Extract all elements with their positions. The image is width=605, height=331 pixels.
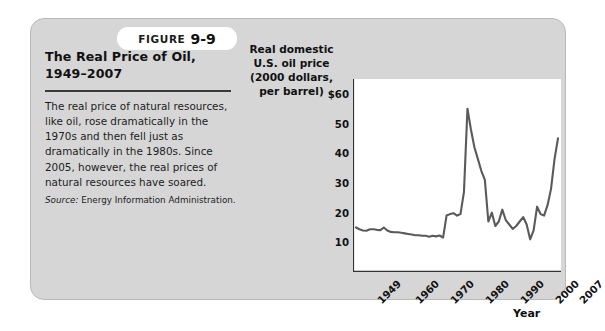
figure-panel: Figure 9-9 The Real Price of Oil, 1949–2…: [30, 18, 566, 300]
title-divider: [45, 90, 231, 92]
plot-area: [353, 79, 561, 272]
oil-price-line-chart: [353, 79, 561, 272]
source-label: Source:: [45, 195, 78, 205]
y-tick-label: 40: [315, 148, 349, 159]
caption-column: The Real Price of Oil, 1949–2007 The rea…: [45, 49, 238, 206]
x-tick-label: 1970: [448, 278, 476, 306]
x-tick-label: 2000: [553, 278, 581, 306]
figure-caption-text: The real price of natural resources, lik…: [45, 99, 238, 189]
figure-number-tab: Figure 9-9: [117, 27, 237, 50]
x-tick-label: 1980: [483, 278, 511, 306]
x-axis-title: Year: [513, 307, 540, 320]
chart: Real domestic U.S. oil price (2000 dolla…: [235, 43, 559, 293]
y-tick-label: 20: [315, 207, 349, 218]
figure-number: 9-9: [190, 31, 215, 47]
figure-source: Source: Energy Information Administratio…: [45, 195, 238, 206]
y-tick-label: 50: [315, 118, 349, 129]
y-axis-tick-labels: $605040302010: [313, 79, 349, 272]
x-tick-label: 1960: [414, 278, 442, 306]
x-tick-label: 2007: [577, 278, 605, 306]
y-tick-label: $60: [315, 88, 349, 99]
x-tick-label: 1949: [375, 278, 403, 306]
axis-lines: [353, 79, 561, 272]
y-tick-label: 10: [315, 237, 349, 248]
y-tick-label: 30: [315, 177, 349, 188]
x-tick-label: 1990: [518, 278, 546, 306]
figure-label: Figure: [138, 33, 185, 45]
figure-title: The Real Price of Oil, 1949–2007: [45, 49, 238, 82]
source-text: Energy Information Administration.: [81, 195, 235, 205]
oil-price-series-line: [356, 109, 558, 240]
